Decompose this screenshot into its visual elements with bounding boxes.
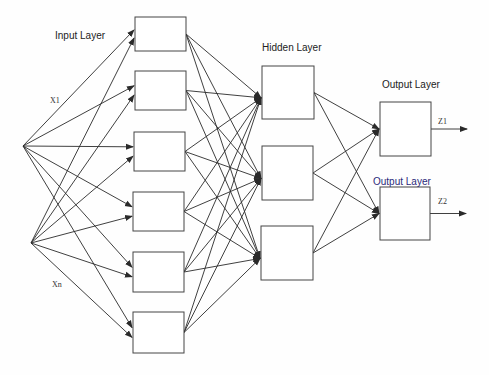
hidden-edge: [185, 152, 260, 259]
hidden-layer-node-3: [261, 226, 313, 280]
input-edge: [23, 146, 133, 147]
hidden-edge: [184, 98, 261, 212]
output-edge: [313, 214, 379, 254]
output-layer-1-label: Output Layer: [382, 79, 440, 90]
hidden-edge: [184, 212, 260, 259]
output-edge: [313, 129, 379, 253]
input-edge: [23, 146, 132, 328]
output-layer-node-1: [380, 102, 431, 156]
z2-label: Z2: [438, 197, 447, 206]
diagram-svg: Input Layer Hidden Layer Output Layer Ou…: [0, 0, 489, 375]
hidden-edge: [184, 178, 261, 332]
hidden-layer-node-2: [262, 146, 313, 200]
hidden-edge: [186, 34, 261, 98]
output-layer-2-label: Output Layer: [373, 176, 431, 187]
input-layer-node-2: [135, 71, 186, 110]
input-edge: [23, 86, 134, 146]
output-layer-node-2: [380, 187, 430, 240]
input-edge: [23, 146, 132, 267]
x1-label: X1: [50, 96, 60, 105]
input-edge: [31, 243, 132, 277]
input-layer-node-1: [135, 17, 186, 51]
hidden-layer-label: Hidden Layer: [262, 42, 322, 53]
output-edge: [313, 173, 379, 214]
z1-label: Z1: [438, 117, 447, 126]
input-layer-node-4: [133, 192, 184, 231]
input-layer-node-5: [133, 252, 184, 292]
input-layer-label: Input Layer: [55, 30, 106, 41]
neural-network-diagram: Input Layer Hidden Layer Output Layer Ou…: [0, 0, 489, 375]
input-edge: [31, 243, 132, 337]
input-edge: [31, 95, 134, 243]
output-edge: [313, 129, 379, 173]
input-layer-node-3: [134, 132, 185, 171]
input-edge: [23, 30, 134, 146]
input-layer-node-6: [133, 312, 184, 353]
hidden-layer-node-1: [262, 66, 314, 119]
xn-label: Xn: [52, 280, 62, 289]
hidden-edge: [184, 98, 261, 272]
hidden-edge: [186, 91, 261, 98]
